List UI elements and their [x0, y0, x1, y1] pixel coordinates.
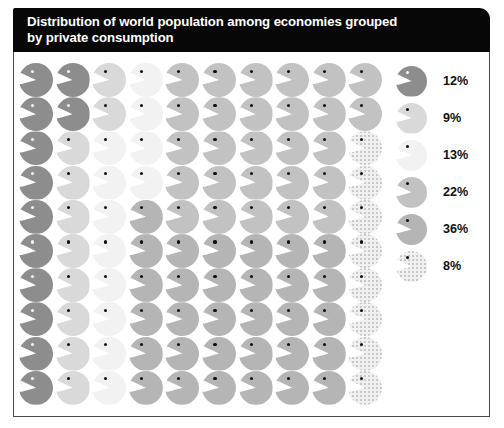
pictogram-cell: [91, 166, 128, 200]
pictogram-dot-icon: [250, 275, 253, 278]
pictogram-circle-icon: [56, 302, 90, 336]
pictogram-dot-icon: [140, 275, 143, 278]
pictogram-circle-icon: [348, 97, 382, 131]
pictogram-dot-icon: [104, 309, 107, 312]
pictogram-cell: [274, 131, 311, 165]
pictogram-circle-icon: [348, 302, 382, 336]
pictogram-circle-icon: [202, 97, 236, 131]
pictogram-dot-icon: [213, 172, 216, 175]
pictogram-dot-icon: [213, 138, 216, 141]
pictogram-cell: [164, 166, 201, 200]
pictogram-dot-icon: [67, 70, 70, 73]
pictogram-circle-icon: [165, 371, 199, 405]
pictogram-dot-icon: [177, 343, 180, 346]
pictogram-circle-icon: [312, 371, 346, 405]
pictogram-grid: [18, 63, 384, 408]
pictogram-cell: [347, 166, 384, 200]
pictogram-dot-icon: [140, 206, 143, 209]
pictogram-circle-icon: [19, 371, 53, 405]
pictogram-dot-icon: [31, 343, 34, 346]
pictogram-circle-icon: [202, 131, 236, 165]
pictogram-cell: [128, 337, 165, 371]
pictogram-dot-icon: [213, 70, 216, 73]
pictogram-cell: [201, 166, 238, 200]
pictogram-circle-icon: [56, 131, 90, 165]
pictogram-cell: [311, 302, 348, 336]
pictogram-dot-icon: [360, 172, 363, 175]
pictogram-circle-icon: [19, 131, 53, 165]
infographic-figure: Distribution of world population among e…: [0, 0, 504, 428]
pictogram-circle-icon: [129, 131, 163, 165]
pictogram-cell: [238, 97, 275, 131]
page-title: Distribution of world population among e…: [27, 14, 476, 45]
pictogram-dot-icon: [177, 172, 180, 175]
legend-swatch: [396, 103, 430, 134]
pictogram-circle-icon: [92, 131, 126, 165]
pictogram-circle-icon: [275, 131, 309, 165]
pictogram-circle-icon: [202, 302, 236, 336]
legend-circle-icon: [396, 103, 427, 134]
pictogram-dot-icon: [360, 70, 363, 73]
pictogram-cell: [18, 371, 55, 405]
pictogram-circle-icon: [275, 200, 309, 234]
pictogram-cell: [55, 302, 92, 336]
legend-label: 9%: [443, 111, 461, 125]
pictogram-cell: [164, 337, 201, 371]
legend-circle-icon: [396, 140, 427, 171]
pictogram-cell: [55, 371, 92, 405]
pictogram-circle-icon: [312, 302, 346, 336]
legend-swatch: [396, 177, 430, 208]
pictogram-cell: [201, 268, 238, 302]
pictogram-circle-icon: [348, 234, 382, 268]
pictogram-dot-icon: [177, 377, 180, 380]
pictogram-cell: [311, 268, 348, 302]
pictogram-cell: [274, 97, 311, 131]
pictogram-circle-icon: [239, 337, 273, 371]
pictogram-dot-icon: [360, 240, 363, 243]
pictogram-circle-icon: [239, 63, 273, 97]
pictogram-dot-icon: [250, 377, 253, 380]
pictogram-cell: [347, 302, 384, 336]
legend-swatch: [396, 251, 430, 282]
pictogram-cell: [91, 337, 128, 371]
legend-label: 8%: [443, 259, 461, 273]
legend: 12%9%13%22%36%8%: [396, 64, 488, 287]
pictogram-dot-icon: [140, 343, 143, 346]
pictogram-circle-icon: [239, 97, 273, 131]
pictogram-cell: [55, 200, 92, 234]
pictogram-cell: [347, 371, 384, 405]
pictogram-dot-icon: [213, 275, 216, 278]
pictogram-circle-icon: [239, 234, 273, 268]
pictogram-cell: [128, 371, 165, 405]
pictogram-dot-icon: [177, 206, 180, 209]
pictogram-circle-icon: [275, 302, 309, 336]
pictogram-circle-icon: [348, 200, 382, 234]
pictogram-dot-icon: [323, 104, 326, 107]
pictogram-circle-icon: [92, 268, 126, 302]
pictogram-dot-icon: [287, 309, 290, 312]
pictogram-dot-icon: [67, 343, 70, 346]
pictogram-circle-icon: [202, 166, 236, 200]
pictogram-circle-icon: [165, 97, 199, 131]
pictogram-dot-icon: [323, 70, 326, 73]
legend-circle-icon: [396, 214, 427, 245]
legend-dot-icon: [406, 219, 409, 222]
pictogram-dot-icon: [250, 206, 253, 209]
pictogram-circle-icon: [56, 337, 90, 371]
pictogram-circle-icon: [19, 200, 53, 234]
pictogram-dot-icon: [287, 70, 290, 73]
pictogram-circle-icon: [92, 97, 126, 131]
pictogram-cell: [311, 200, 348, 234]
pictogram-dot-icon: [360, 343, 363, 346]
pictogram-cell: [164, 131, 201, 165]
pictogram-circle-icon: [129, 166, 163, 200]
legend-label: 22%: [443, 185, 468, 199]
pictogram-circle-icon: [348, 63, 382, 97]
pictogram-circle-icon: [202, 337, 236, 371]
pictogram-dot-icon: [104, 138, 107, 141]
pictogram-dot-icon: [31, 206, 34, 209]
pictogram-circle-icon: [165, 337, 199, 371]
legend-swatch: [396, 214, 430, 245]
pictogram-cell: [238, 302, 275, 336]
pictogram-cell: [164, 97, 201, 131]
